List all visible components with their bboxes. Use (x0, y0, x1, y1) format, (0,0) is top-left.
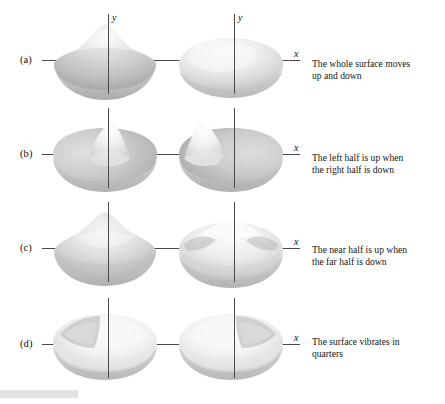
caption-d: The surface vibrates in quarters (312, 336, 444, 359)
mode-row-a: (a) x (0, 12, 445, 107)
y-axis-line-d-right (234, 298, 235, 378)
y-axis-line-b-left (108, 108, 109, 188)
surface-c-right (176, 210, 286, 296)
row-label-b: (b) (20, 148, 33, 159)
x-axis-label-d: x (294, 332, 298, 343)
row-label-c: (c) (20, 242, 32, 253)
y-axis-line-b-right (234, 108, 235, 188)
x-axis-label-a: x (294, 48, 298, 59)
caption-d-line2: quarters (312, 348, 343, 359)
row-label-d: (d) (20, 338, 33, 349)
caption-c-line1: The near half is up when (312, 244, 407, 255)
caption-a: The whole surface moves up and down (312, 58, 444, 81)
y-axis-line-a-left (108, 14, 109, 94)
y-axis-line-c-left (108, 202, 109, 282)
mode-row-c: (c) x (0, 200, 445, 295)
y-axis-line-a-right (234, 14, 235, 94)
mode-row-d: (d) x (0, 296, 445, 391)
y-axis-line-c-right (234, 202, 235, 282)
y-axis-label-right: y (238, 12, 242, 23)
surface-d-right (176, 304, 286, 390)
caption-a-line2: up and down (312, 70, 362, 81)
x-axis-label-c: x (294, 236, 298, 247)
surface-c-left (50, 204, 160, 290)
caption-b-line1: The left half is up when (312, 152, 403, 163)
y-axis-label-left: y (112, 12, 116, 23)
surface-b-left (50, 112, 160, 198)
mode-row-b: (b) x (0, 106, 445, 201)
row-label-a: (a) (20, 54, 32, 65)
caption-c-line2: the far half is down (312, 256, 387, 267)
caption-b-line2: the right half is down (312, 164, 394, 175)
caption-a-line1: The whole surface moves (312, 58, 410, 69)
drum-vibration-modes-figure: (a) x (0, 0, 445, 404)
caption-c: The near half is up when the far half is… (312, 244, 444, 267)
footer-bar (0, 390, 78, 398)
surface-b-right (176, 112, 286, 198)
surface-d-left (50, 304, 160, 390)
caption-b: The left half is up when the right half … (312, 152, 444, 175)
y-axis-line-d-left (108, 298, 109, 378)
caption-d-line1: The surface vibrates in (312, 336, 400, 347)
surface-a-right (176, 26, 286, 112)
surface-a-left (50, 18, 160, 104)
x-axis-label-b: x (294, 142, 298, 153)
